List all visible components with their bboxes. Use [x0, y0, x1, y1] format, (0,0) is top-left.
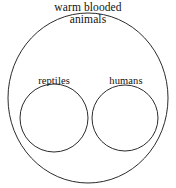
- outer-set-title-line-2: animals: [0, 13, 176, 25]
- euler-diagram: warm blooded animals reptiles humans: [0, 0, 176, 188]
- inner-set-reptiles-circle: [20, 84, 88, 152]
- outer-set-title: warm blooded animals: [0, 1, 176, 25]
- outer-set-warm-blooded-animals: [8, 13, 168, 183]
- inner-set-humans-label: humans: [94, 75, 158, 86]
- inner-set-humans-circle: [92, 85, 158, 151]
- inner-set-reptiles-label: reptiles: [22, 75, 86, 86]
- outer-set-title-line-1: warm blooded: [0, 1, 176, 13]
- venn-diagram-canvas: [0, 0, 176, 188]
